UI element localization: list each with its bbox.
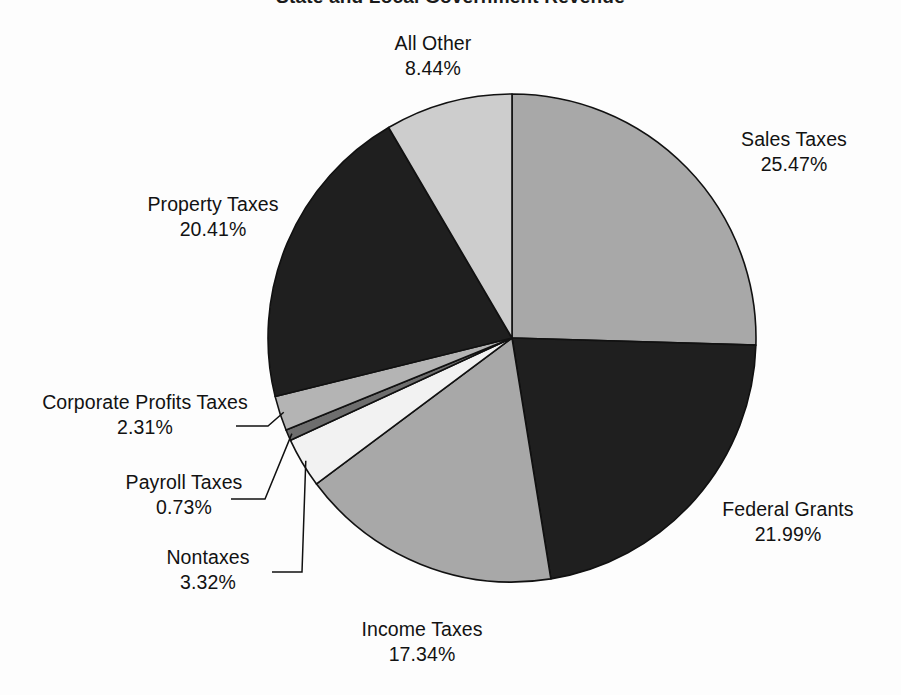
slice-label-income-taxes-value: 17.34% [322,642,522,667]
slice-label-payroll-taxes: Payroll Taxes 0.73% [84,470,284,520]
slice-label-sales-taxes-name: Sales Taxes [704,127,884,152]
slice-label-payroll-taxes-name: Payroll Taxes [84,470,284,495]
chart-canvas: State and Local Government Revenue All O… [0,0,901,695]
pie-slice-group [268,94,756,582]
slice-label-federal-grants: Federal Grants 21.99% [688,497,888,547]
slice-label-nontaxes-name: Nontaxes [118,545,298,570]
slice-label-nontaxes: Nontaxes 3.32% [118,545,298,595]
slice-label-corporate-profits-taxes: Corporate Profits Taxes 2.31% [20,390,270,440]
slice-label-payroll-taxes-value: 0.73% [84,495,284,520]
slice-label-sales-taxes: Sales Taxes 25.47% [704,127,884,177]
slice-label-corporate-profits-taxes-name: Corporate Profits Taxes [20,390,270,415]
slice-label-property-taxes: Property Taxes 20.41% [108,192,318,242]
slice-label-all-other-name: All Other [333,31,533,56]
slice-label-property-taxes-value: 20.41% [108,217,318,242]
slice-label-income-taxes: Income Taxes 17.34% [322,617,522,667]
slice-label-federal-grants-value: 21.99% [688,522,888,547]
slice-label-property-taxes-name: Property Taxes [108,192,318,217]
slice-label-all-other-value: 8.44% [333,56,533,81]
slice-label-nontaxes-value: 3.32% [118,570,298,595]
slice-label-sales-taxes-value: 25.47% [704,152,884,177]
slice-label-federal-grants-name: Federal Grants [688,497,888,522]
slice-label-income-taxes-name: Income Taxes [322,617,522,642]
slice-label-all-other: All Other 8.44% [333,31,533,81]
slice-label-corporate-profits-taxes-value: 2.31% [20,415,270,440]
